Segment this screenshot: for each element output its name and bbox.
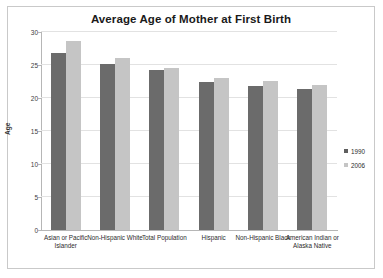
y-tick-label: 15 xyxy=(12,128,38,135)
bar-group xyxy=(238,32,287,230)
chart-title: Average Age of Mother at First Birth xyxy=(8,13,374,25)
x-axis-line xyxy=(41,230,338,231)
legend-swatch-icon xyxy=(344,149,348,153)
bar xyxy=(100,64,115,230)
y-tick-label: 0 xyxy=(12,227,38,234)
bar xyxy=(199,82,214,231)
bar-group xyxy=(288,32,337,230)
bar-group xyxy=(90,32,139,230)
bar xyxy=(115,58,130,230)
y-tick-label: 30 xyxy=(12,29,38,36)
legend-swatch-icon xyxy=(344,163,348,167)
chart-legend: 19902006 xyxy=(344,147,383,175)
bar xyxy=(297,89,312,230)
legend-item[interactable]: 2006 xyxy=(344,161,383,169)
bar xyxy=(164,68,179,230)
chart-container: Average Age of Mother at First Birth Age… xyxy=(7,6,375,269)
y-axis-tick-labels: 051015202530 xyxy=(8,32,38,230)
bar xyxy=(248,86,263,230)
legend-item[interactable]: 1990 xyxy=(344,147,383,155)
y-tick-label: 20 xyxy=(12,95,38,102)
bar xyxy=(214,78,229,230)
x-axis-tick-labels: Asian or Pacific IslanderNon-Hispanic Wh… xyxy=(41,234,337,274)
bar-group xyxy=(189,32,238,230)
legend-label: 1990 xyxy=(351,148,365,155)
y-tick-label: 25 xyxy=(12,62,38,69)
bar-group xyxy=(140,32,189,230)
bar xyxy=(312,85,327,230)
bar xyxy=(263,81,278,230)
bar xyxy=(51,53,66,230)
bar xyxy=(66,41,81,230)
bar-group xyxy=(41,32,90,230)
y-tick-label: 10 xyxy=(12,161,38,168)
bar xyxy=(149,70,164,230)
y-tick-label: 5 xyxy=(12,194,38,201)
plot-area xyxy=(41,32,337,230)
legend-label: 2006 xyxy=(351,162,365,169)
x-tick-label: American Indian or Alaska Native xyxy=(284,234,341,251)
